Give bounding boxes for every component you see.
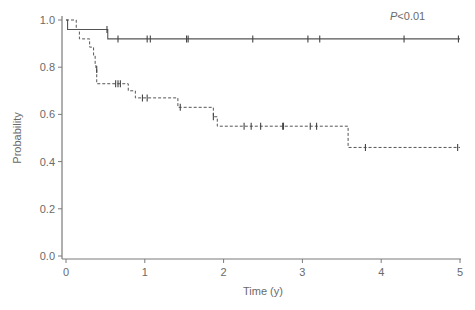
- x-tick-label: 5: [457, 266, 463, 278]
- x-tick-label: 1: [142, 266, 148, 278]
- group-solid-curve: [66, 20, 460, 39]
- p-value-annotation: P<0.01: [390, 10, 425, 22]
- p-value-text: <0.01: [397, 10, 425, 22]
- y-tick-label: 0.8: [40, 61, 55, 73]
- y-tick-label: 1.0: [40, 14, 55, 26]
- y-tick-label: 0.4: [40, 156, 55, 168]
- y-tick-label: 0.6: [40, 108, 55, 120]
- kaplan-meier-chart: 0.00.20.40.60.81.0012345 Time (y) Probab…: [0, 0, 475, 310]
- survival-curves: [66, 20, 460, 151]
- axes: 0.00.20.40.60.81.0012345: [40, 14, 463, 278]
- x-tick-label: 0: [63, 266, 69, 278]
- x-axis-label: Time (y): [243, 285, 283, 297]
- y-tick-label: 0.0: [40, 250, 55, 262]
- y-axis-label: Probability: [11, 112, 23, 164]
- x-tick-label: 3: [299, 266, 305, 278]
- x-tick-label: 4: [378, 266, 384, 278]
- y-tick-label: 0.2: [40, 203, 55, 215]
- x-tick-label: 2: [221, 266, 227, 278]
